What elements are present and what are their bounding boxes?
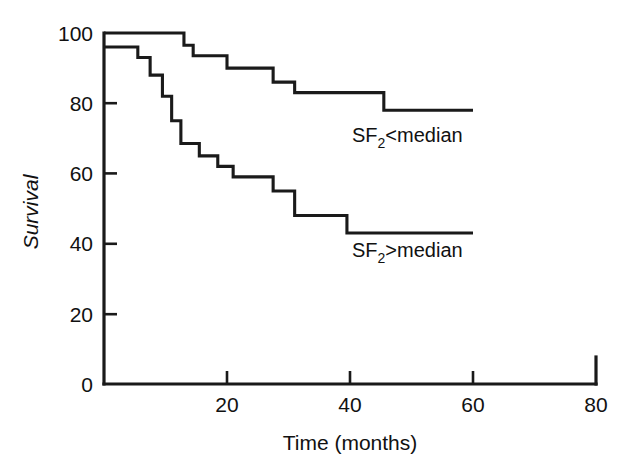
y-tick-label-60: 60 [70, 162, 93, 185]
x-tick-label-60: 60 [461, 393, 484, 416]
y-tick-label-0: 0 [81, 373, 93, 396]
y-tick-label-20: 20 [70, 303, 93, 326]
chart-page: 100 80 60 40 20 0 20 40 60 80 Time (mont… [0, 0, 631, 468]
chart-background [0, 0, 631, 468]
x-tick-label-20: 20 [215, 393, 238, 416]
survival-chart: 100 80 60 40 20 0 20 40 60 80 Time (mont… [0, 0, 631, 468]
y-tick-label-100: 100 [58, 22, 93, 45]
x-axis-title: Time (months) [283, 431, 418, 454]
y-axis-title: Survival [19, 173, 42, 249]
x-tick-label-40: 40 [338, 393, 361, 416]
y-tick-label-40: 40 [70, 232, 93, 255]
y-tick-label-80: 80 [70, 92, 93, 115]
x-tick-label-80: 80 [584, 393, 607, 416]
